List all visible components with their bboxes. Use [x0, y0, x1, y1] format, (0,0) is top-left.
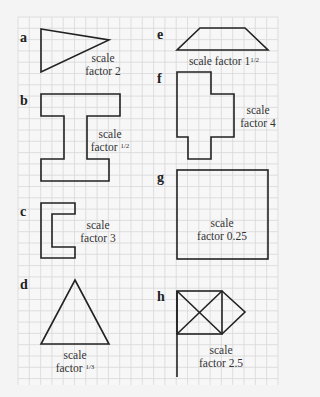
caption-f: scalefactor 4 — [236, 104, 280, 130]
label-h: h — [157, 290, 165, 304]
label-b: b — [20, 94, 28, 108]
label-f: f — [157, 72, 162, 86]
label-d: d — [20, 278, 28, 292]
caption-a: scalefactor 2 — [78, 52, 128, 78]
caption-e: scale factor 11/2 — [184, 55, 264, 68]
label-e: e — [157, 28, 163, 42]
caption-b: scalefactor 1/2 — [88, 128, 132, 154]
label-a: a — [20, 31, 27, 45]
label-c: c — [20, 205, 26, 219]
caption-g: scalefactor 0.25 — [190, 217, 254, 243]
caption-c: scalefactor 3 — [78, 219, 118, 245]
label-g: g — [157, 171, 164, 185]
caption-d: scalefactor 1/3 — [52, 349, 98, 375]
caption-h: scalefactor 2.5 — [196, 344, 246, 370]
